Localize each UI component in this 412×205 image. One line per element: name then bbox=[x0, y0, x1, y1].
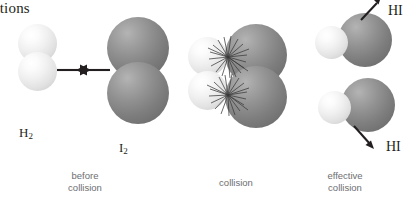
spark-burst-lower-icon bbox=[206, 72, 250, 118]
h2-label-text: H bbox=[19, 125, 28, 140]
i2-label-subscript: 2 bbox=[123, 146, 128, 156]
figure-heading: actions bbox=[0, 0, 30, 17]
hi-lower-hydrogen-atom bbox=[318, 91, 351, 124]
i2-label: I2 bbox=[119, 140, 128, 156]
caption-effective-collision: effective collision bbox=[305, 170, 385, 194]
h2-label: H2 bbox=[19, 125, 33, 141]
i2-atom-bottom bbox=[107, 62, 169, 124]
hi-label-bottom: HI bbox=[386, 139, 401, 155]
hi-upper-hydrogen-atom bbox=[315, 26, 348, 59]
arrow-hi-upper-icon bbox=[357, 0, 385, 22]
hi-label-top: HI bbox=[388, 3, 403, 19]
reaction-collision-diagram: actions H2 I2 bbox=[0, 0, 412, 205]
arrow-left-icon bbox=[74, 62, 110, 78]
caption-before-collision: before collision bbox=[45, 170, 125, 194]
h2-label-subscript: 2 bbox=[28, 131, 33, 141]
caption-collision: collision bbox=[196, 177, 276, 189]
arrow-hi-lower-icon bbox=[352, 124, 382, 152]
h2-atom-bottom bbox=[18, 52, 57, 91]
